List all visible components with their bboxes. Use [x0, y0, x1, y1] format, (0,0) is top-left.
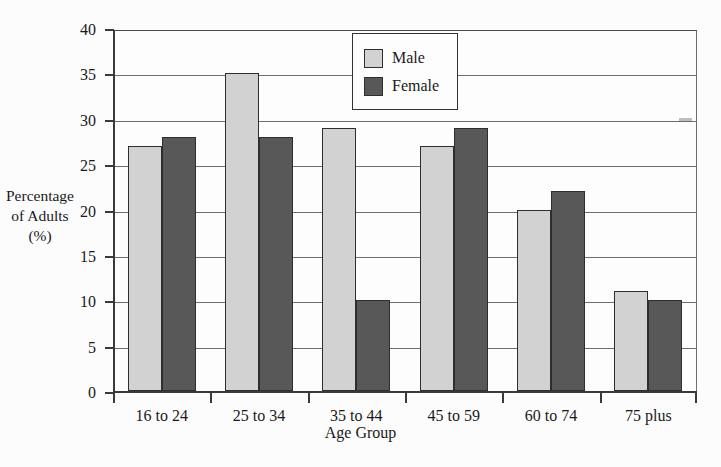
bar-female-16-to-24 — [162, 137, 196, 391]
y-tick-label-5: 5 — [0, 340, 96, 356]
legend-swatch-male-icon — [364, 49, 383, 68]
chart-legend: Male Female — [352, 33, 458, 110]
x-tick-label-45-to-59: 45 to 59 — [405, 407, 502, 425]
x-tick-label-16-to-24: 16 to 24 — [113, 407, 210, 425]
bar-male-35-to-44 — [322, 128, 356, 391]
gridline-30 — [115, 121, 697, 122]
bar-male-45-to-59 — [420, 146, 454, 391]
x-tick-label-35-to-44: 35 to 44 — [308, 407, 405, 425]
bar-male-75-plus — [614, 291, 648, 391]
chart-canvas: Percentage of Adults (%) 051015202530354… — [0, 0, 721, 467]
bar-female-75-plus — [648, 300, 682, 391]
bar-male-16-to-24 — [128, 146, 162, 391]
gridline-5 — [115, 348, 697, 349]
bar-male-60-to-74 — [517, 210, 551, 392]
x-tick-mark-2 — [308, 393, 310, 403]
y-tick-label-40: 40 — [0, 22, 96, 38]
bar-female-60-to-74 — [551, 191, 585, 391]
y-tick-label-20: 20 — [0, 204, 96, 220]
gridline-20 — [115, 212, 697, 213]
legend-swatch-female-icon — [364, 77, 383, 96]
x-tick-mark-5 — [600, 393, 602, 403]
y-tick-label-30: 30 — [0, 113, 96, 129]
x-tick-mark-1 — [210, 393, 212, 403]
y-axis-title-line-3: (%) — [0, 226, 88, 246]
gridline-25 — [115, 166, 697, 167]
gridline-10 — [115, 302, 697, 303]
x-axis-title: Age Group — [0, 424, 721, 442]
plot-right-border — [696, 30, 697, 391]
bar-female-35-to-44 — [356, 300, 390, 391]
legend-label-male: Male — [392, 50, 425, 66]
legend-label-female: Female — [392, 78, 439, 94]
x-tick-mark-end — [695, 393, 697, 403]
legend-item-female: Female — [364, 72, 457, 100]
bar-female-45-to-59 — [454, 128, 488, 391]
x-tick-label-75-plus: 75 plus — [600, 407, 697, 425]
y-tick-label-15: 15 — [0, 249, 96, 265]
gridline-15 — [115, 257, 697, 258]
x-tick-label-60-to-74: 60 to 74 — [502, 407, 599, 425]
x-tick-mark-3 — [405, 393, 407, 403]
x-tick-mark-0 — [113, 393, 115, 403]
bar-male-25-to-34 — [225, 73, 259, 391]
y-tick-label-35: 35 — [0, 67, 96, 83]
scan-artifact — [679, 118, 692, 121]
y-tick-label-0: 0 — [0, 385, 96, 401]
y-tick-label-25: 25 — [0, 158, 96, 174]
x-tick-label-25-to-34: 25 to 34 — [210, 407, 307, 425]
legend-item-male: Male — [364, 44, 457, 72]
bar-female-25-to-34 — [259, 137, 293, 391]
gridline-40 — [115, 30, 697, 31]
y-tick-label-10: 10 — [0, 294, 96, 310]
x-tick-mark-4 — [502, 393, 504, 403]
